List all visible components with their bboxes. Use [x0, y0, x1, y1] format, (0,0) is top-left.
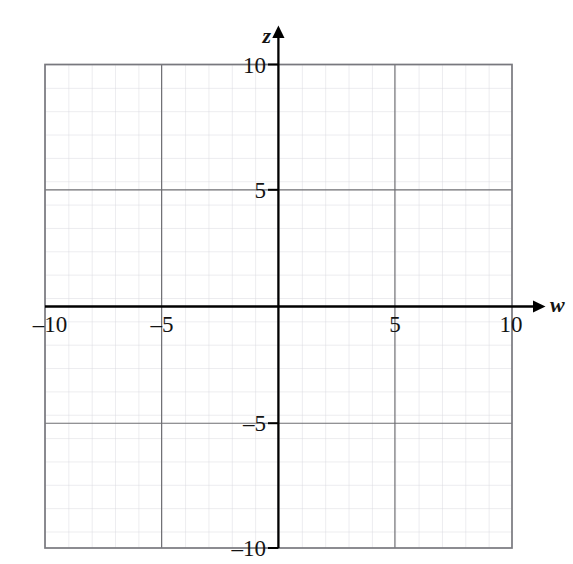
z-axis-label: z [262, 25, 271, 47]
z-tick-label-10: 10 [243, 53, 266, 76]
w-tick-label-5: 5 [389, 313, 401, 336]
z-tick-label-5: 5 [255, 178, 267, 201]
coordinate-grid-figure: 10 5 –5 –10 –10 –5 5 10 z w [0, 0, 573, 564]
w-axis-arrowhead [533, 300, 546, 312]
z-tick-label-minus5: –5 [243, 412, 266, 435]
z-tick-label-minus10: –10 [232, 537, 267, 560]
w-tick-label-10: 10 [500, 313, 523, 336]
w-tick-label-minus5: –5 [151, 313, 174, 336]
z-axis-arrowhead [272, 26, 284, 39]
w-tick-label-minus10: –10 [33, 313, 68, 336]
coordinate-plane-svg [0, 0, 573, 564]
w-axis-label: w [550, 294, 565, 316]
